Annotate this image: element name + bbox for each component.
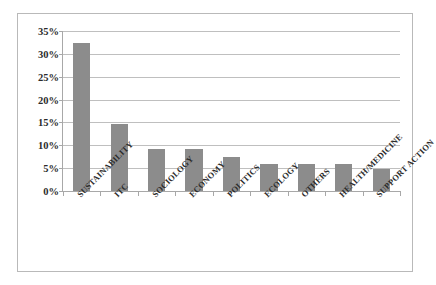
y-axis-tick-label: 30% bbox=[38, 48, 59, 59]
bar[interactable] bbox=[73, 43, 90, 191]
gridline bbox=[63, 122, 400, 123]
y-axis-tick-label: 15% bbox=[38, 117, 59, 128]
gridline bbox=[63, 77, 400, 78]
gridline bbox=[63, 54, 400, 55]
chart-plot-wrapper: 0%5%10%15%20%25%30%35% SUSTAINABILITYITC… bbox=[18, 14, 412, 271]
gridline bbox=[63, 31, 400, 32]
y-axis-tick-mark bbox=[59, 145, 63, 146]
y-axis-tick-label: 25% bbox=[38, 71, 59, 82]
x-axis-tick-mark bbox=[400, 191, 401, 196]
y-axis-tick-mark bbox=[59, 54, 63, 55]
y-axis-tick-label: 20% bbox=[38, 94, 59, 105]
y-axis-tick-mark bbox=[59, 168, 63, 169]
y-axis-tick-mark bbox=[59, 100, 63, 101]
y-axis-tick-mark bbox=[59, 122, 63, 123]
y-axis-tick-labels: 0%5%10%15%20%25%30%35% bbox=[22, 31, 59, 191]
gridline bbox=[63, 100, 400, 101]
chart-frame: 0%5%10%15%20%25%30%35% SUSTAINABILITYITC… bbox=[17, 13, 413, 272]
y-axis-tick-label: 10% bbox=[38, 140, 59, 151]
y-axis-tick-label: 35% bbox=[38, 26, 59, 37]
y-axis-tick-label: 5% bbox=[43, 163, 59, 174]
y-axis-tick-label: 0% bbox=[43, 186, 59, 197]
y-axis-tick-mark bbox=[59, 31, 63, 32]
x-axis-category-labels: SUSTAINABILITYITCSOCIOLOGYECONOMYPOLITIC… bbox=[62, 192, 399, 272]
y-axis-tick-mark bbox=[59, 77, 63, 78]
